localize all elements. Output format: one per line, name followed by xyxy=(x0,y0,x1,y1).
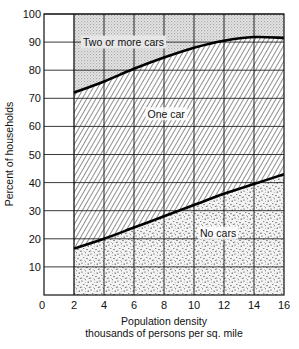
y-axis-ticks: 102030405060708090100 xyxy=(23,8,41,273)
y-axis-title: Percent of households xyxy=(3,102,15,207)
y-tick-label: 90 xyxy=(29,36,41,48)
region-label: One car xyxy=(146,107,188,120)
x-tick-label: 14 xyxy=(248,299,260,311)
x-tick-label: 16 xyxy=(278,299,290,311)
x-tick-label: 6 xyxy=(131,299,137,311)
y-tick-label: 100 xyxy=(23,8,41,20)
x-axis-subtitle: thousands of persons per sq. mile xyxy=(85,327,243,339)
y-tick-label: 80 xyxy=(29,64,41,76)
x-tick-label: 8 xyxy=(161,299,167,311)
x-tick-label: 10 xyxy=(188,299,200,311)
y-tick-label: 50 xyxy=(29,149,41,161)
y-tick-label: 20 xyxy=(29,233,41,245)
x-tick-label: 12 xyxy=(218,299,230,311)
y-tick-label: 10 xyxy=(29,261,41,273)
x-tick-label: 2 xyxy=(71,299,77,311)
y-tick-label: 40 xyxy=(29,177,41,189)
x-axis-ticks: 0246810121416 xyxy=(39,299,290,311)
y-tick-label: 60 xyxy=(29,120,41,132)
stacked-area-chart: 102030405060708090100 0246810121416 Two … xyxy=(0,0,299,349)
svg-text:Two or more cars: Two or more cars xyxy=(83,36,164,48)
x-tick-label: 4 xyxy=(101,299,107,311)
svg-text:No cars: No cars xyxy=(200,227,236,239)
svg-text:One car: One car xyxy=(148,108,186,120)
x-tick-label: 0 xyxy=(39,299,45,311)
y-tick-label: 70 xyxy=(29,92,41,104)
region-label: Two or more cars xyxy=(81,36,166,49)
region-label: No cars xyxy=(198,227,238,240)
x-axis-title: Population density xyxy=(121,315,208,327)
y-tick-label: 30 xyxy=(29,205,41,217)
